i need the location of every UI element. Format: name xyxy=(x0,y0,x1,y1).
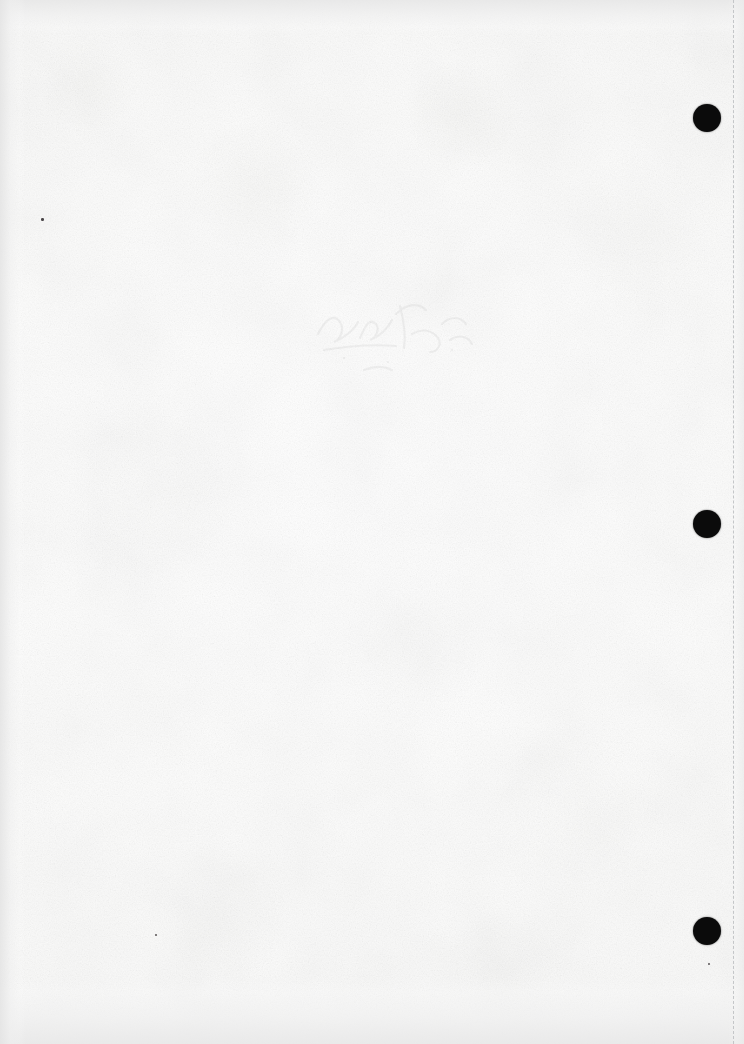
speck-lower-right xyxy=(708,963,710,965)
speck-lower-left xyxy=(155,934,157,936)
punch-hole-middle xyxy=(693,510,721,538)
punch-hole-bottom xyxy=(693,917,721,945)
speck-upper-left xyxy=(41,218,44,221)
punch-hole-top xyxy=(693,104,721,132)
paper-background xyxy=(0,0,744,1044)
scanned-page xyxy=(0,0,744,1044)
right-margin-dashed-line xyxy=(733,0,734,1044)
